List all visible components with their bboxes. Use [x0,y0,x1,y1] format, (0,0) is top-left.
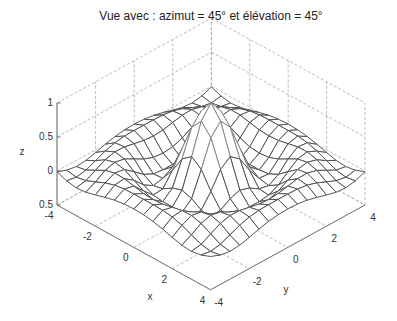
chart-title: Vue avec : azimut = 45° et élévation = 4… [99,9,322,23]
surface-plot: Vue avec : azimut = 45° et élévation = 4… [0,0,397,321]
tick-label: -4 [214,297,223,308]
tick-label: 1 [47,97,53,108]
tick-label: 4 [370,212,376,223]
mesh-surface [57,87,365,257]
tick-label: -2 [253,276,262,287]
y-axis-label: y [284,284,289,295]
tick-label: 2 [332,233,338,244]
x-axis-label: x [148,291,153,302]
tick-label: 0 [293,254,299,265]
tick-label: 0 [123,252,129,263]
tick-label: 2 [161,274,167,285]
tick-label: -2 [83,231,92,242]
tick-label: -4 [45,210,54,221]
z-axis-label: z [20,146,25,157]
tick-label: 0 [47,165,53,176]
tick-label: 0.5 [39,199,53,210]
tick-label: 4 [200,295,206,306]
tick-label: 0.5 [39,131,53,142]
